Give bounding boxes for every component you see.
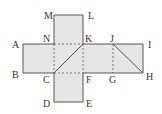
label-n: N — [43, 33, 50, 44]
label-k: K — [85, 33, 93, 44]
label-i: I — [148, 39, 151, 50]
label-a: A — [12, 39, 20, 50]
label-b: B — [12, 69, 19, 80]
label-e: E — [86, 98, 92, 109]
label-g: G — [109, 74, 116, 85]
label-m: M — [44, 10, 53, 21]
net-diagram: M L A N K J I B C F G H D E — [0, 0, 162, 114]
label-d: D — [43, 98, 50, 109]
label-j: J — [110, 33, 114, 44]
label-f: F — [86, 74, 92, 85]
label-c: C — [43, 74, 50, 85]
label-h: H — [146, 71, 153, 82]
label-l: L — [88, 10, 94, 21]
